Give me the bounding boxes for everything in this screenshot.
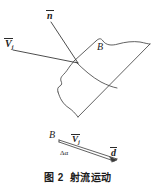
label-surface-b-top: B [97, 42, 103, 52]
label-jet-velocity-detail: Vj [72, 135, 80, 145]
figure-caption-title: 射流运动 [70, 172, 112, 183]
figure-container: n Vj B B Vj Δα d 图 2射流运动 [0, 0, 156, 187]
label-delta-alpha: Δα [60, 150, 68, 157]
patch-right-edge [78, 44, 150, 117]
label-jet-velocity: Vj [5, 39, 14, 50]
label-jet-velocity-symbol: V [5, 38, 12, 49]
patch-bottom-edge [58, 92, 78, 117]
label-distance-d: d [111, 148, 116, 158]
jet-velocity-line [13, 50, 78, 63]
figure-caption: 图 2射流运动 [0, 169, 156, 184]
label-surface-b-bottom: B [49, 130, 55, 140]
label-jet-velocity-detail-subscript: j [78, 139, 80, 145]
normal-vector-line [51, 22, 78, 63]
patch-left-edge [58, 61, 74, 92]
label-jet-velocity-subscript: j [12, 43, 14, 50]
label-normal-vector: n [47, 11, 53, 21]
figure-drawing [0, 0, 156, 187]
patch-top-edge [96, 39, 150, 45]
patch-top-left-edge [74, 41, 96, 61]
figure-caption-number: 图 2 [44, 172, 64, 183]
